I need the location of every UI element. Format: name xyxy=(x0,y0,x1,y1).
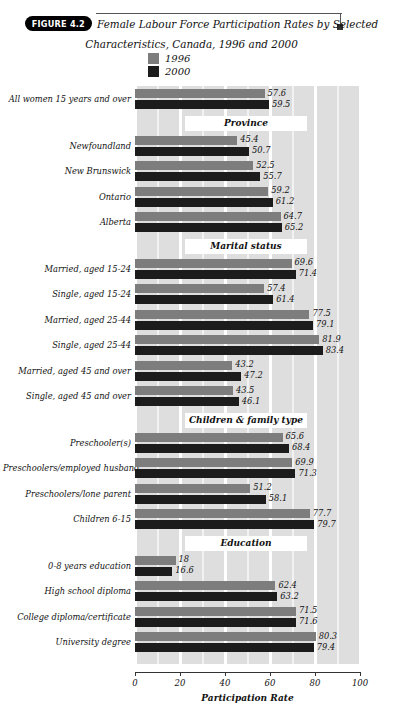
bar-2000 xyxy=(135,223,282,232)
chart-row: Married, aged 15-2469.671.4 xyxy=(0,257,399,283)
x-axis-tick-60 xyxy=(270,672,271,676)
row-label: New Brunswick xyxy=(3,167,131,176)
bar-1996 xyxy=(135,581,275,590)
row-label: Married, aged 15-24 xyxy=(3,265,131,274)
bar-wrapper-1996: 43.2 xyxy=(135,361,399,370)
legend-label-2000: 2000 xyxy=(165,66,190,77)
bar-1996 xyxy=(135,509,310,518)
bar-1996 xyxy=(135,187,268,196)
bar-wrapper-1996: 71.5 xyxy=(135,607,399,616)
bar-value-2000: 71.3 xyxy=(295,468,316,478)
row-label: Newfoundland xyxy=(3,142,131,151)
bar-wrapper-1996: 69.9 xyxy=(135,458,399,467)
bar-1996 xyxy=(135,433,283,442)
chart-row: Children 6-1577.779.7 xyxy=(0,507,399,533)
bar-value-2000: 83.4 xyxy=(323,345,344,355)
bar-1996 xyxy=(135,212,281,221)
bar-2000 xyxy=(135,567,172,576)
row-bars: 43.546.1 xyxy=(135,386,399,408)
bar-value-1996: 64.7 xyxy=(281,211,302,221)
bar-wrapper-2000: 16.6 xyxy=(135,567,399,576)
bar-1996 xyxy=(135,259,292,268)
bar-wrapper-1996: 51.2 xyxy=(135,484,399,493)
bar-1996 xyxy=(135,136,237,145)
x-axis-title: Participation Rate xyxy=(135,693,360,703)
bar-value-1996: 71.5 xyxy=(296,605,317,615)
bar-wrapper-2000: 61.2 xyxy=(135,198,399,207)
bar-2000 xyxy=(135,321,313,330)
row-bars: 57.461.4 xyxy=(135,284,399,306)
bar-value-1996: 52.5 xyxy=(253,160,274,170)
chart-row: University degree80.379.4 xyxy=(0,630,399,656)
row-label: Ontario xyxy=(3,193,131,202)
bar-1996 xyxy=(135,386,233,395)
bar-value-1996: 81.9 xyxy=(319,334,340,344)
bar-wrapper-1996: 57.4 xyxy=(135,284,399,293)
bar-wrapper-2000: 58.1 xyxy=(135,495,399,504)
bar-value-2000: 71.6 xyxy=(296,616,317,626)
x-axis-tick-label-80: 80 xyxy=(310,678,321,688)
row-label: 0-8 years education xyxy=(3,562,131,571)
bar-value-2000: 50.7 xyxy=(249,145,270,155)
bar-2000 xyxy=(135,270,296,279)
bar-2000 xyxy=(135,444,289,453)
bar-value-1996: 65.6 xyxy=(283,431,304,441)
bar-1996 xyxy=(135,335,319,344)
x-axis-tick-0 xyxy=(135,672,136,676)
row-label: Alberta xyxy=(3,218,131,227)
x-axis-tick-100 xyxy=(360,672,361,676)
bar-2000 xyxy=(135,469,295,478)
bar-wrapper-2000: 65.2 xyxy=(135,223,399,232)
bar-value-2000: 79.1 xyxy=(313,319,334,329)
group-header-band: Education xyxy=(185,536,307,551)
x-axis-tick-label-0: 0 xyxy=(132,678,137,688)
bar-2000 xyxy=(135,592,277,601)
x-axis-tick-label-20: 20 xyxy=(175,678,186,688)
bar-wrapper-2000: 59.5 xyxy=(135,100,399,109)
bar-wrapper-1996: 52.5 xyxy=(135,161,399,170)
bar-value-2000: 71.4 xyxy=(296,268,317,278)
bar-2000 xyxy=(135,198,273,207)
bar-value-1996: 62.4 xyxy=(275,580,296,590)
bar-wrapper-2000: 71.3 xyxy=(135,469,399,478)
bar-value-2000: 65.2 xyxy=(282,222,303,232)
chart-row: Ontario59.261.2 xyxy=(0,185,399,211)
bar-value-1996: 69.6 xyxy=(292,257,313,267)
group-header-label: Marital status xyxy=(210,241,281,251)
row-label: Married, aged 45 and over xyxy=(3,367,131,376)
bar-2000 xyxy=(135,172,260,181)
bar-value-2000: 59.5 xyxy=(269,99,290,109)
bar-value-1996: 80.3 xyxy=(316,631,337,641)
bar-1996 xyxy=(135,607,296,616)
figure-title-line-2: Characteristics, Canada, 1996 and 2000 xyxy=(0,33,399,52)
figure-title-text-2: Characteristics, Canada, 1996 and 2000 xyxy=(85,38,298,50)
chart-row: Single, aged 15-2457.461.4 xyxy=(0,282,399,308)
bar-wrapper-1996: 62.4 xyxy=(135,581,399,590)
bar-value-2000: 47.2 xyxy=(241,370,262,380)
chart-row: Newfoundland45.450.7 xyxy=(0,134,399,160)
bar-wrapper-1996: 18 xyxy=(135,556,399,565)
bar-value-1996: 77.5 xyxy=(309,308,330,318)
chart-row: Alberta64.765.2 xyxy=(0,210,399,236)
bar-2000 xyxy=(135,147,249,156)
row-bars: 45.450.7 xyxy=(135,136,399,158)
bar-value-2000: 68.4 xyxy=(289,442,310,452)
x-axis-tick-label-60: 60 xyxy=(265,678,276,688)
group-header-label: Education xyxy=(220,538,271,548)
bar-wrapper-1996: 80.3 xyxy=(135,632,399,641)
figure-title-line-1: FIGURE 4.2 Female Labour Force Participa… xyxy=(0,16,399,31)
bar-value-1996: 57.4 xyxy=(264,283,285,293)
bar-wrapper-1996: 45.4 xyxy=(135,136,399,145)
bar-wrapper-1996: 65.6 xyxy=(135,433,399,442)
row-bars: 57.659.5 xyxy=(135,89,399,111)
bar-value-2000: 46.1 xyxy=(239,396,260,406)
row-bars: 80.379.4 xyxy=(135,632,399,654)
bar-wrapper-2000: 68.4 xyxy=(135,444,399,453)
row-bars: 69.971.3 xyxy=(135,458,399,480)
chart-row: College diploma/certificate71.571.6 xyxy=(0,605,399,631)
chart-row: All women 15 years and over57.659.5 xyxy=(0,87,399,113)
bar-value-2000: 16.6 xyxy=(172,565,193,575)
bar-wrapper-1996: 57.6 xyxy=(135,89,399,98)
legend-item-2000: 2000 xyxy=(148,65,190,78)
bar-wrapper-2000: 47.2 xyxy=(135,372,399,381)
